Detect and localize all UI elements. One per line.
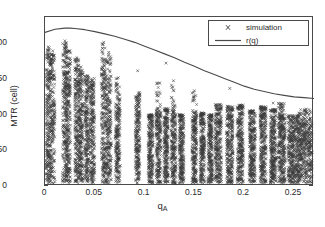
y-tick-label-50: 50 bbox=[0, 144, 7, 154]
x-axis-label-subscript: A bbox=[163, 205, 168, 212]
x-axis-label: qA bbox=[0, 200, 325, 212]
y-tick-label-0: 0 bbox=[2, 180, 7, 190]
x-tick-label-02: 0.2 bbox=[237, 187, 249, 197]
x-tick-label-015: 0.15 bbox=[185, 187, 202, 197]
legend-item-rq: r(q) bbox=[209, 34, 308, 47]
legend-label-simulation: simulation bbox=[246, 21, 282, 34]
legend-item-simulation: simulation bbox=[209, 21, 308, 34]
legend-marker-x-icon bbox=[213, 21, 243, 34]
y-tick-label-100: 100 bbox=[0, 109, 7, 119]
legend-line-icon bbox=[213, 34, 243, 47]
x-tick-label-005: 0.05 bbox=[86, 187, 103, 197]
y-tick-label-150: 150 bbox=[0, 73, 7, 83]
x-tick-label-025: 0.25 bbox=[285, 187, 302, 197]
figure: MTR (cell) 0 50 100 150 200 0 0.05 0.1 0… bbox=[0, 0, 325, 227]
legend-label-rq: r(q) bbox=[246, 34, 258, 47]
legend: simulation r(q) bbox=[208, 20, 309, 46]
x-tick-label-01: 0.1 bbox=[138, 187, 150, 197]
simulation-markers bbox=[45, 39, 313, 185]
x-tick-label-0: 0 bbox=[42, 187, 47, 197]
y-axis-label: MTR (cell) bbox=[9, 70, 19, 142]
y-tick-label-200: 200 bbox=[0, 37, 7, 47]
